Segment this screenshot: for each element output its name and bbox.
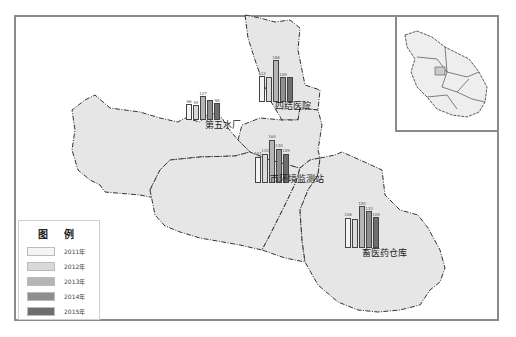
bar-2012 bbox=[266, 77, 272, 102]
bar-2011 bbox=[255, 157, 261, 183]
legend-item-2012: 2012年 bbox=[27, 262, 97, 272]
legend-item-2011: 2011年 bbox=[27, 247, 97, 257]
inset-locator-map bbox=[395, 15, 499, 132]
legend-label: 2014年 bbox=[64, 292, 85, 301]
legend-swatch bbox=[27, 262, 55, 271]
legend-item-2015: 2015年 bbox=[27, 307, 97, 317]
site-label: 市环境监测站 bbox=[270, 172, 324, 185]
bar-value: 106 bbox=[341, 212, 355, 217]
legend-label: 2013年 bbox=[64, 277, 85, 286]
legend: 图 例 2011年 2012年 2013年 2014年 2015年 bbox=[18, 220, 100, 320]
legend-title: 图 例 bbox=[19, 226, 99, 241]
legend-swatch bbox=[27, 292, 55, 301]
bar-2012 bbox=[262, 154, 268, 183]
legend-swatch bbox=[27, 277, 55, 286]
bar-value: 112 bbox=[255, 71, 269, 76]
legend-swatch bbox=[27, 247, 55, 256]
bar-value: 133 bbox=[362, 206, 376, 211]
bar-2014 bbox=[207, 100, 213, 120]
bar-value: 127 bbox=[196, 91, 210, 96]
bar-group-site-0: 96 92 127 98 bbox=[186, 96, 222, 120]
bar-value: 92 bbox=[189, 100, 203, 105]
bar-2011 bbox=[345, 218, 351, 248]
bar-2013 bbox=[359, 206, 365, 248]
bar-value: 109 bbox=[369, 212, 383, 217]
inset-map-shape bbox=[397, 17, 497, 130]
site-label: 四结医院 bbox=[275, 99, 311, 112]
bar-2011 bbox=[259, 76, 265, 102]
bar-2013 bbox=[273, 60, 279, 102]
site-label: 畜医药仓库 bbox=[362, 246, 407, 259]
bar-value: 109 bbox=[276, 72, 290, 77]
bar-group-site-3: 106 150 133 109 bbox=[345, 206, 381, 248]
bar-value: 109 bbox=[279, 148, 293, 153]
legend-label: 2015年 bbox=[64, 307, 85, 316]
bar-value: 98 bbox=[210, 98, 224, 103]
bar-2015 bbox=[373, 217, 379, 248]
bar-value: 186 bbox=[269, 55, 283, 60]
bar-2012 bbox=[193, 105, 199, 120]
site-label: 第五水厂 bbox=[205, 118, 241, 131]
legend-label: 2011年 bbox=[64, 247, 85, 256]
bar-value: 164 bbox=[265, 134, 279, 139]
legend-swatch bbox=[27, 307, 55, 316]
legend-item-2014: 2014年 bbox=[27, 292, 97, 302]
legend-item-2013: 2013年 bbox=[27, 277, 97, 287]
legend-label: 2012年 bbox=[64, 262, 85, 271]
bar-2012 bbox=[352, 219, 358, 248]
bar-2011 bbox=[186, 104, 192, 120]
bar-value: 110 bbox=[258, 148, 272, 153]
bar-group-site-1: 112 186 109 bbox=[259, 60, 295, 102]
